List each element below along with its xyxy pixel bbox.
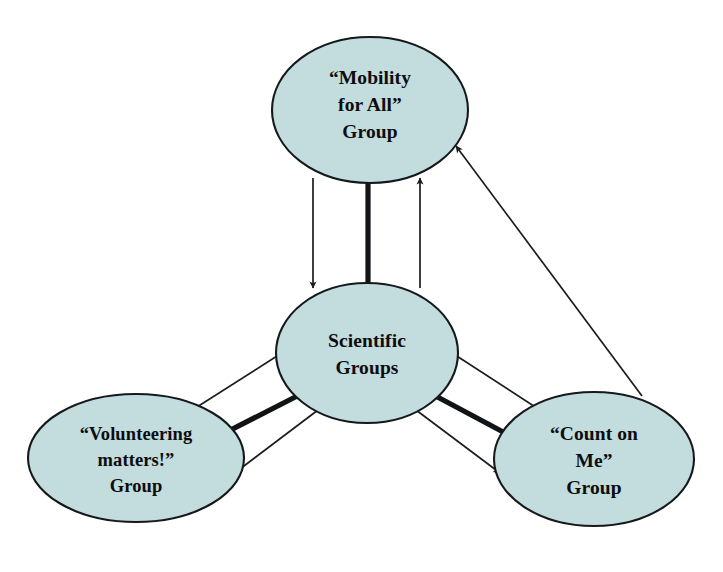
node-scientific-label: Scientific: [328, 330, 406, 351]
node-mobility-label-line3: Group: [342, 121, 397, 142]
node-scientific-label-line2: Groups: [335, 357, 398, 378]
node-volunteering-label: “Volunteering: [80, 424, 193, 444]
node-scientific-groups[interactable]: Scientific Groups: [276, 283, 458, 423]
node-scientific-ellipse: [276, 283, 458, 423]
edge-counton-to-mobility: [456, 146, 642, 396]
node-counton-label: “Count on: [550, 423, 638, 444]
node-volunteering-label-line2: matters!”: [98, 450, 175, 470]
node-volunteering-label-line3: Group: [110, 476, 163, 496]
node-mobility-label-line2: for All”: [338, 94, 402, 115]
node-counton-label-line2: Me”: [575, 450, 612, 471]
node-count-on-me-group[interactable]: “Count on Me” Group: [494, 392, 694, 526]
node-mobility-for-all-group[interactable]: “Mobility for All” Group: [272, 37, 468, 183]
edge-counton-to-scientific: [446, 349, 546, 414]
node-counton-label-line3: Group: [566, 477, 621, 498]
edge-scientific-to-counton: [416, 410, 500, 473]
node-mobility-label: “Mobility: [329, 67, 411, 88]
node-volunteering-matters-group[interactable]: “Volunteering matters!” Group: [28, 394, 244, 522]
edge-volunteering-to-scientific: [186, 349, 288, 414]
group-interaction-diagram: “Mobility for All” Group Scientific Grou…: [0, 0, 723, 572]
diagram-canvas: “Mobility for All” Group Scientific Grou…: [0, 0, 723, 572]
